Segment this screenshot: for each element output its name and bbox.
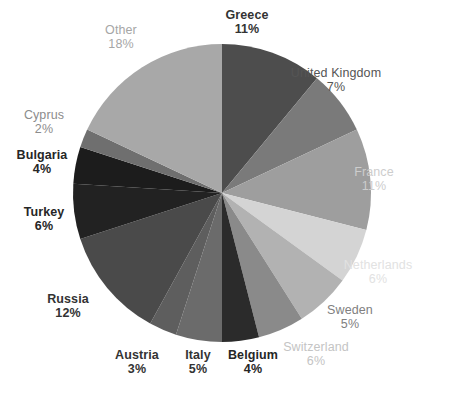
slice-label-turkey: Turkey6% [0, 205, 114, 234]
slice-label-percent: 18% [51, 37, 191, 51]
slice-label-name: Bulgaria [0, 148, 112, 162]
slice-label-other: Other18% [51, 23, 191, 52]
slice-label-russia: Russia12% [0, 292, 138, 321]
slice-label-united-kingdom: United Kingdom7% [266, 66, 406, 95]
pie-chart-svg [0, 0, 457, 396]
slice-label-name: Other [51, 23, 191, 37]
slice-label-name: Greece [177, 8, 317, 22]
slice-label-cyprus: Cyprus2% [0, 108, 114, 137]
slice-label-percent: 7% [266, 80, 406, 94]
slice-label-netherlands: Netherlands6% [308, 258, 448, 287]
slice-label-name: Turkey [0, 205, 114, 219]
slice-label-austria: Austria3% [67, 348, 207, 377]
slice-label-name: United Kingdom [266, 66, 406, 80]
slice-label-percent: 3% [67, 362, 207, 376]
pie-chart-figure: Greece11%United Kingdom7%France11%Nether… [0, 0, 457, 396]
slice-label-percent: 6% [0, 219, 114, 233]
slice-label-percent: 2% [0, 122, 114, 136]
slice-label-percent: 12% [0, 306, 138, 320]
slice-label-greece: Greece11% [177, 8, 317, 37]
slice-label-percent: 4% [0, 162, 112, 176]
slice-label-percent: 5% [280, 317, 420, 331]
slice-label-name: France [304, 165, 444, 179]
slice-label-sweden: Sweden5% [280, 303, 420, 332]
slice-label-name: Cyprus [0, 108, 114, 122]
slice-label-name: Russia [0, 292, 138, 306]
slice-label-name: Netherlands [308, 258, 448, 272]
slice-label-percent: 11% [304, 179, 444, 193]
slice-label-bulgaria: Bulgaria4% [0, 148, 112, 177]
slice-label-percent: 6% [308, 272, 448, 286]
slice-label-name: Austria [67, 348, 207, 362]
slice-label-name: Sweden [280, 303, 420, 317]
slice-label-france: France11% [304, 165, 444, 194]
slice-label-percent: 11% [177, 22, 317, 36]
